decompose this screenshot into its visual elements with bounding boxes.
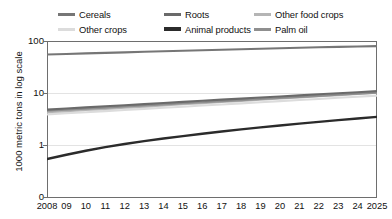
legend-item-cereals[interactable]: Cereals (58, 7, 111, 21)
legend-swatch-other-crops (58, 28, 75, 31)
series-line-animal-products (47, 117, 377, 159)
legend-item-other-food-crops[interactable]: Other food crops (254, 7, 343, 21)
legend-row-1: Cereals Roots Other food crops (58, 7, 388, 21)
legend-label-cereals: Cereals (79, 9, 111, 20)
series-line-palm-oil (47, 93, 377, 111)
y-axis-title: 1000 metric tons in log scale (13, 37, 24, 187)
y-tick-label-1: 1 (4, 140, 44, 150)
plot-area (47, 41, 377, 198)
y-tick-label-100: 100 (4, 36, 44, 46)
legend-item-animal-products[interactable]: Animal products (164, 22, 251, 36)
chart-legend: Cereals Roots Other food crops Other cro… (58, 7, 388, 37)
x-axis: 2008091011121314151617181920212223242025 (47, 201, 377, 217)
legend-swatch-animal-products (164, 27, 181, 30)
chart-figure: Cereals Roots Other food crops Other cro… (0, 0, 392, 219)
legend-row-2: Other crops Animal products Palm oil (58, 22, 388, 36)
y-tick-label-10: 10 (4, 88, 44, 98)
legend-swatch-roots (164, 13, 181, 16)
y-axis: 100 10 1 0 1000 metric tons in log scale (0, 0, 44, 219)
legend-label-palm-oil: Palm oil (275, 24, 308, 35)
legend-swatch-cereals (58, 13, 75, 16)
legend-label-roots: Roots (185, 9, 209, 20)
legend-item-other-crops[interactable]: Other crops (58, 22, 127, 36)
series-line-roots (47, 91, 377, 110)
legend-swatch-palm-oil (254, 28, 271, 31)
x-tick-label-2025: 2025 (363, 201, 391, 212)
series-line-other-crops (47, 96, 377, 115)
legend-label-other-crops: Other crops (79, 24, 127, 35)
legend-label-other-food-crops: Other food crops (275, 9, 343, 20)
legend-item-roots[interactable]: Roots (164, 7, 209, 21)
legend-item-palm-oil[interactable]: Palm oil (254, 22, 308, 36)
legend-swatch-other-food-crops (254, 13, 271, 16)
series-lines (47, 41, 377, 198)
series-line-cereals (47, 46, 377, 54)
legend-label-animal-products: Animal products (185, 24, 251, 35)
